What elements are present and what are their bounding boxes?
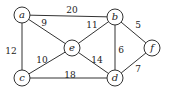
edge-a-e [22, 15, 72, 48]
node-label-d: d [112, 72, 118, 83]
edge-weight-b-d: 6 [118, 45, 124, 55]
node-label-b: b [112, 11, 118, 22]
node-c: c [14, 70, 30, 86]
edge-weight-b-f: 5 [135, 20, 141, 30]
node-d: d [107, 70, 123, 86]
graph-diagram: 2091151261014718 abefcd [0, 0, 173, 99]
edge-weight-d-f: 7 [135, 64, 141, 74]
node-e: e [64, 40, 80, 56]
edge-weight-c-e: 10 [36, 55, 48, 65]
edge-weight-e-d: 14 [91, 55, 103, 65]
node-label-c: c [19, 72, 25, 83]
node-f: f [144, 40, 160, 56]
edge-weight-a-b: 20 [66, 5, 78, 15]
edge-weight-c-d: 18 [64, 70, 76, 80]
node-b: b [107, 9, 123, 25]
edge-weight-a-c: 12 [5, 46, 16, 56]
edge-weight-e-b: 11 [86, 20, 97, 30]
node-a: a [14, 7, 30, 23]
edge-a-b [22, 15, 115, 17]
node-label-a: a [19, 9, 25, 20]
edge-weight-a-e: 9 [41, 18, 47, 28]
node-label-e: e [69, 42, 75, 53]
